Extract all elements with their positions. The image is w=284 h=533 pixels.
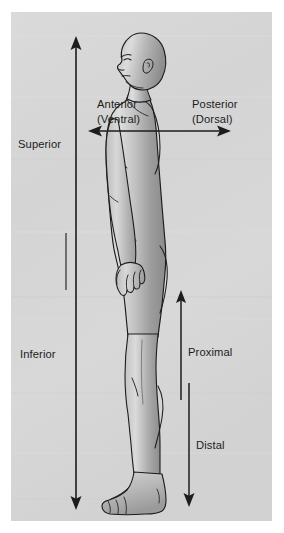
label-posterior: Posterior (192, 98, 238, 110)
label-distal: Distal (196, 439, 225, 451)
label-superior: Superior (18, 138, 61, 150)
label-posterior-alt: (Dorsal) (192, 113, 233, 125)
anatomy-diagram-svg: Superior Inferior Anterior (Ventral) Pos… (0, 0, 284, 533)
label-anterior-alt: (Ventral) (97, 113, 140, 125)
label-anterior: Anterior (97, 98, 137, 110)
label-inferior: Inferior (20, 348, 56, 360)
label-proximal: Proximal (188, 346, 232, 358)
anatomy-figure-container: Superior Inferior Anterior (Ventral) Pos… (0, 0, 284, 533)
